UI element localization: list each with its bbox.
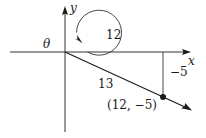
point-coordinate-label: (12, −5) (107, 99, 157, 111)
adjacent-length-label: 12 (106, 29, 121, 41)
x-axis (10, 49, 191, 55)
hypotenuse-length-label: 13 (98, 78, 113, 90)
terminal-point-marker (160, 94, 166, 100)
y-axis (62, 6, 68, 132)
opposite-length-label: −5 (170, 66, 188, 78)
trigonometry-diagram: y x θ 12 13 −5 (12, −5) (0, 0, 206, 138)
x-axis-label: x (188, 55, 195, 67)
y-axis-label: y (70, 2, 77, 14)
theta-label: θ (43, 38, 50, 50)
